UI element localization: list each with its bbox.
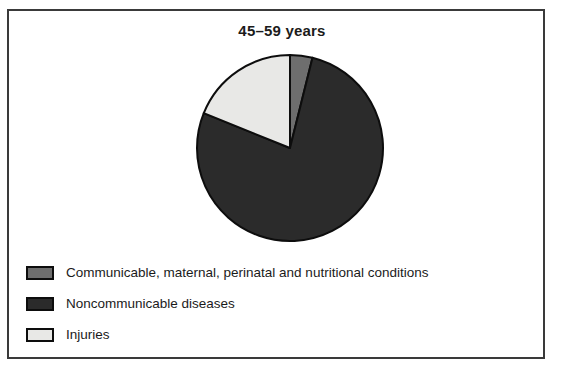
legend-item-injuries: Injuries [26,319,526,350]
legend-label-communicable: Communicable, maternal, perinatal and nu… [66,265,428,280]
pie-slice-group [197,55,383,241]
figure-page: 45–59 years Communicable, maternal, peri… [0,0,564,368]
legend-label-noncommunicable: Noncommunicable diseases [66,296,235,311]
legend-item-noncommunicable: Noncommunicable diseases [26,288,526,319]
legend-swatch-communicable-icon [26,266,54,280]
legend-swatch-injuries-icon [26,328,54,342]
legend-swatch-noncommunicable-icon [26,297,54,311]
pie-chart-svg [195,53,385,243]
legend-item-communicable: Communicable, maternal, perinatal and nu… [26,257,526,288]
legend-label-injuries: Injuries [66,327,110,342]
pie-chart [195,53,385,243]
legend: Communicable, maternal, perinatal and nu… [26,257,526,350]
page-title: 45–59 years [0,22,564,39]
